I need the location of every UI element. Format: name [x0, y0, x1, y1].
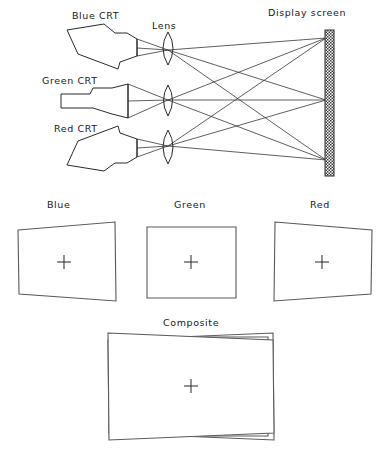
composite-panel-group: Composite [108, 317, 274, 440]
display-screen-label: Display screen [268, 7, 346, 18]
lens-to-screen-rays [168, 38, 326, 160]
hatched-screen-icon [325, 30, 334, 176]
green-panel-label: Green [174, 199, 206, 210]
composite-panel-label: Composite [163, 317, 219, 328]
crt-tube-icon-green [61, 84, 128, 118]
biconvex-lens-icon-green [164, 85, 173, 116]
crt-tube-icon-blue [67, 24, 137, 69]
lens-label: Lens [152, 20, 176, 31]
red-panel-label: Red [310, 199, 330, 210]
projection-crt-diagram: Blue CRT Green CRT Red CRT Lens [0, 0, 384, 458]
individual-raster-panels: Blue Green Red [18, 199, 372, 301]
blue-panel-label: Blue [47, 199, 70, 210]
green-crt-label: Green CRT [42, 75, 98, 86]
blue-crt-label: Blue CRT [72, 10, 119, 21]
optical-schematic: Blue CRT Green CRT Red CRT Lens [42, 7, 346, 176]
red-crt-label: Red CRT [54, 123, 98, 134]
